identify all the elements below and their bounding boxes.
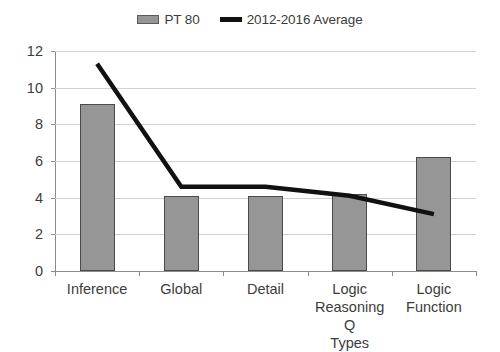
y-tick-label: 10 bbox=[0, 80, 43, 96]
y-tick-label: 6 bbox=[0, 153, 43, 169]
x-tick-mark bbox=[476, 271, 477, 276]
x-axis-line bbox=[55, 271, 477, 272]
x-tick-label: Global bbox=[139, 280, 223, 298]
y-tick-label: 12 bbox=[0, 43, 43, 59]
x-tick-label-line: Detail bbox=[224, 280, 308, 298]
x-tick-label: Detail bbox=[224, 280, 308, 298]
y-tick-label: 2 bbox=[0, 226, 43, 242]
x-tick-label-line: Inference bbox=[55, 280, 139, 298]
x-tick-label-line: Function bbox=[392, 298, 476, 316]
x-tick-label-line: Global bbox=[139, 280, 223, 298]
x-tick-mark bbox=[139, 271, 140, 276]
x-tick-mark bbox=[308, 271, 309, 276]
x-tick-mark bbox=[55, 271, 56, 276]
line-series-average bbox=[55, 51, 476, 271]
y-tick-label: 0 bbox=[0, 263, 43, 279]
bar-swatch-icon bbox=[137, 15, 159, 24]
plot-area bbox=[55, 51, 476, 271]
x-tick-mark bbox=[223, 271, 224, 276]
x-tick-label-line: Types bbox=[308, 334, 392, 352]
x-tick-label: LogicReasoning QTypes bbox=[308, 280, 392, 352]
legend-item-average: 2012-2016 Average bbox=[220, 12, 363, 27]
x-tick-mark bbox=[392, 271, 393, 276]
x-tick-label-line: Logic bbox=[392, 280, 476, 298]
x-tick-label-line: Logic bbox=[308, 280, 392, 298]
legend-label-average: 2012-2016 Average bbox=[247, 12, 363, 27]
line-swatch-icon bbox=[220, 17, 242, 22]
y-tick-label: 8 bbox=[0, 116, 43, 132]
y-tick-label: 4 bbox=[0, 190, 43, 206]
chart-legend: PT 80 2012-2016 Average bbox=[0, 12, 500, 27]
legend-item-pt80: PT 80 bbox=[137, 12, 199, 27]
x-tick-label-line: Reasoning Q bbox=[308, 298, 392, 334]
legend-label-pt80: PT 80 bbox=[164, 12, 199, 27]
x-tick-label: LogicFunction bbox=[392, 280, 476, 316]
x-tick-label: Inference bbox=[55, 280, 139, 298]
